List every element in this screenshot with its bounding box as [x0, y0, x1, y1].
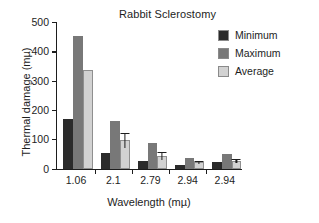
x-tick-label: 1.06: [66, 174, 86, 186]
y-tick: [52, 81, 56, 82]
error-bar-cap-top: [120, 133, 129, 134]
bar: [212, 162, 222, 169]
bar: [148, 143, 158, 169]
legend-item[interactable]: Average: [218, 63, 281, 79]
y-tick-label: 400: [31, 45, 49, 57]
x-axis-title: Wavelength (mµ): [56, 196, 242, 208]
legend-label: Average: [235, 65, 274, 77]
y-tick-label: 200: [31, 104, 49, 116]
legend-item[interactable]: Minimum: [218, 27, 281, 43]
error-bar-cap-top: [158, 152, 167, 153]
y-tick-label: 100: [31, 133, 49, 145]
x-tick-label: 2.94: [177, 174, 197, 186]
x-tick-label: 2.79: [140, 174, 160, 186]
legend-item[interactable]: Maximum: [218, 45, 281, 61]
y-axis-line: [56, 22, 57, 170]
bar: [138, 161, 148, 169]
error-bar-stem: [124, 133, 125, 148]
y-tick-label: 300: [31, 75, 49, 87]
x-tick: [95, 170, 96, 174]
error-bar-cap-top: [195, 161, 204, 162]
x-tick: [169, 170, 170, 174]
y-tick-label: 0: [43, 163, 49, 175]
legend-label: Minimum: [235, 29, 278, 41]
error-bar: [232, 159, 242, 163]
bar: [101, 153, 111, 168]
x-tick-label: 2.1: [106, 174, 121, 186]
y-tick: [52, 22, 56, 23]
legend-swatch-icon: [218, 30, 229, 41]
x-tick-label: 2.94: [215, 174, 235, 186]
x-tick: [206, 170, 207, 174]
bar: [175, 165, 185, 169]
bar: [222, 154, 232, 169]
legend-swatch-icon: [218, 66, 229, 77]
error-bar-cap-top: [232, 159, 241, 160]
bar: [73, 36, 83, 169]
chart-figure: Rabbit Sclerostomy 0100200300400500 1.06…: [0, 0, 319, 223]
x-axis-line: [56, 169, 242, 170]
y-tick: [52, 139, 56, 140]
error-bar: [157, 152, 167, 160]
plot-area: 0100200300400500 1.062.12.792.942.94: [56, 22, 242, 170]
x-tick: [132, 170, 133, 174]
legend-label: Maximum: [235, 47, 281, 59]
chart-legend: MinimumMaximumAverage: [218, 27, 281, 81]
bar: [110, 121, 120, 169]
legend-swatch-icon: [218, 48, 229, 59]
y-tick: [52, 169, 56, 170]
error-bar: [120, 133, 130, 148]
y-tick: [52, 110, 56, 111]
y-axis-title: Thermal damage (mµ): [20, 28, 32, 176]
bar: [63, 119, 73, 169]
error-bar: [194, 161, 204, 164]
bar: [83, 70, 93, 169]
y-tick: [52, 51, 56, 52]
plot-inner: 0100200300400500 1.062.12.792.942.94: [56, 22, 242, 170]
y-tick-label: 500: [31, 16, 49, 28]
bar: [185, 158, 195, 169]
